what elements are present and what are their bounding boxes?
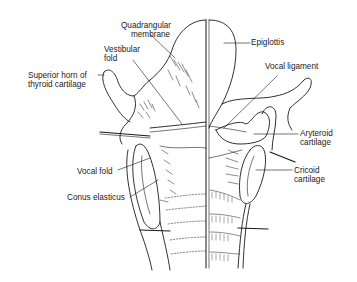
pin-left-upper — [100, 132, 150, 136]
larynx-diagram: Quadrangular membrane Vestibular fold Su… — [0, 0, 357, 282]
label-vocal-ligament: Vocal ligament — [265, 62, 318, 71]
label-vocal-fold: Vocal fold — [77, 167, 113, 176]
label-superior-horn: Superior horn of thyroid cartilage — [28, 71, 87, 89]
pin-right-upper — [270, 152, 295, 162]
label-cricoid-cartilage: Cricoid cartilage — [294, 166, 325, 184]
pin-right-lower — [238, 228, 268, 229]
label-conus-elasticus: Conus elasticus — [67, 193, 125, 202]
cricoid-right — [239, 146, 265, 204]
superior-horn-left — [104, 70, 150, 96]
epiglottis-right-outline — [209, 20, 236, 128]
pin-left-lower — [140, 230, 170, 231]
superior-horn-right — [288, 78, 311, 130]
label-arytenoid-cartilage: Aryteroid cartilage — [300, 129, 333, 147]
label-quadrangular-membrane: Quadrangular membrane — [121, 21, 171, 39]
label-vestibular-fold: Vestibular fold — [104, 45, 140, 63]
vocal-fold-left — [133, 144, 160, 229]
label-epiglottis: Epiglottis — [251, 38, 284, 47]
